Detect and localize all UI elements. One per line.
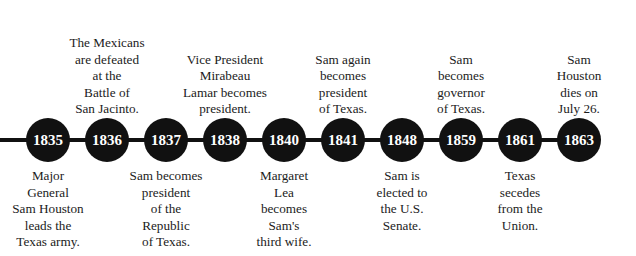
timeline-caption-1859: Sam becomes governor of Texas. <box>398 52 524 118</box>
timeline-node-year-label: 1838 <box>210 133 240 148</box>
timeline-node-year-label: 1840 <box>269 133 299 148</box>
timeline-caption-1835: Major General Sam Houston leads the Texa… <box>0 168 111 251</box>
timeline-node-1863[interactable]: 1863 <box>557 118 601 162</box>
timeline-node-year-label: 1848 <box>387 133 417 148</box>
timeline-node-1837[interactable]: 1837 <box>144 118 188 162</box>
timeline-node-year-label: 1837 <box>151 133 181 148</box>
timeline-node-1848[interactable]: 1848 <box>380 118 424 162</box>
timeline-caption-1861: Texas secedes from the Union. <box>457 168 583 234</box>
timeline-node-1840[interactable]: 1840 <box>262 118 306 162</box>
timeline-node-year-label: 1859 <box>446 133 476 148</box>
timeline-node-year-label: 1835 <box>33 133 63 148</box>
timeline-node-year-label: 1861 <box>505 133 535 148</box>
timeline-node-year-label: 1841 <box>328 133 358 148</box>
timeline-caption-1836: The Mexicans are defeated at the Battle … <box>44 35 170 118</box>
timeline-node-1835[interactable]: 1835 <box>26 118 70 162</box>
timeline-caption-1841: Sam again becomes president of Texas. <box>280 52 406 118</box>
timeline-node-year-label: 1836 <box>92 133 122 148</box>
timeline-node-year-label: 1863 <box>564 133 594 148</box>
timeline-node-1841[interactable]: 1841 <box>321 118 365 162</box>
timeline-node-1838[interactable]: 1838 <box>203 118 247 162</box>
timeline-node-1861[interactable]: 1861 <box>498 118 542 162</box>
timeline-node-1859[interactable]: 1859 <box>439 118 483 162</box>
timeline-caption-1863: Sam Houston dies on July 26. <box>516 52 636 118</box>
timeline-node-1836[interactable]: 1836 <box>85 118 129 162</box>
timeline-caption-1840: Margaret Lea becomes Sam's third wife. <box>221 168 347 251</box>
timeline-caption-1837: Sam becomes president of the Republic of… <box>103 168 229 251</box>
timeline-figure: 1835183618371838184018411848185918611863… <box>0 0 636 256</box>
timeline-caption-1838: Vice President Mirabeau Lamar becomes pr… <box>162 52 288 118</box>
timeline-caption-1848: Sam is elected to the U.S. Senate. <box>339 168 465 234</box>
